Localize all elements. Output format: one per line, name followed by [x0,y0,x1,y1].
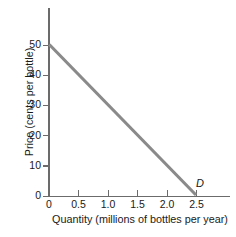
demand-curve-chart: 0 10 20 30 40 50 0 0.5 1.0 1.5 2.0 2.5 D… [0,0,236,237]
y-axis-title: Price (cents per bottle) [23,17,35,187]
x-axis-title: Quantity (millions of bottles per year) [48,213,232,225]
demand-curve-line [49,45,196,196]
demand-curve-label: D [196,177,204,189]
plot-area [0,0,236,237]
